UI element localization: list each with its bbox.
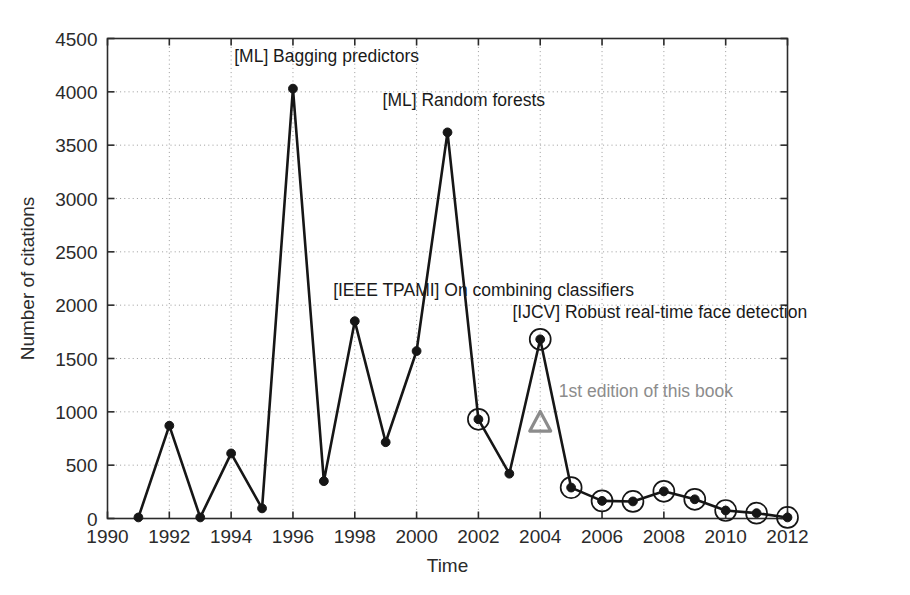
data-point <box>783 513 792 522</box>
data-point <box>443 128 452 137</box>
data-point <box>289 84 298 93</box>
chart-canvas: 0500100015002000250030003500400045001990… <box>0 0 910 595</box>
data-point <box>258 504 267 513</box>
y-tick-label: 2500 <box>55 242 97 263</box>
data-point <box>629 497 638 506</box>
chart-annotation: [ML] Bagging predictors <box>234 46 419 66</box>
x-tick-label: 2006 <box>581 526 623 547</box>
data-point <box>381 438 390 447</box>
data-point <box>536 335 545 344</box>
data-point <box>598 497 607 506</box>
y-tick-label: 4500 <box>55 29 97 50</box>
x-tick-label: 2002 <box>457 526 499 547</box>
x-tick-label: 1996 <box>272 526 314 547</box>
x-tick-label: 2008 <box>643 526 685 547</box>
x-tick-label: 2004 <box>519 526 562 547</box>
y-tick-label: 3500 <box>55 135 97 156</box>
data-point <box>319 477 328 486</box>
chart-annotation: [IEEE TPAMI] On combining classifiers <box>333 280 634 300</box>
data-point <box>165 421 174 430</box>
data-point <box>412 347 421 356</box>
x-tick-label: 2010 <box>705 526 747 547</box>
y-axis-title: Number of citations <box>17 197 38 361</box>
y-tick-label: 2000 <box>55 295 97 316</box>
chart-annotation: [ML] Random forests <box>383 90 546 110</box>
data-point <box>752 509 761 518</box>
x-tick-label: 1992 <box>148 526 190 547</box>
data-point <box>134 513 143 522</box>
chart-annotation: [IJCV] Robust real-time face detection <box>512 302 807 322</box>
y-tick-label: 3000 <box>55 189 97 210</box>
data-point <box>350 317 359 326</box>
y-tick-label: 500 <box>66 455 98 476</box>
y-tick-label: 1500 <box>55 349 97 370</box>
plot-frame <box>108 39 788 519</box>
data-point <box>474 415 483 424</box>
citation-chart-figure: 0500100015002000250030003500400045001990… <box>0 0 910 595</box>
x-tick-label: 1998 <box>334 526 376 547</box>
data-point <box>659 487 668 496</box>
x-tick-label: 1994 <box>210 526 253 547</box>
y-tick-label: 4000 <box>55 82 97 103</box>
chart-annotation: 1st edition of this book <box>559 381 733 401</box>
data-point <box>690 495 699 504</box>
data-point <box>505 469 514 478</box>
x-axis-title: Time <box>427 555 469 576</box>
y-tick-label: 1000 <box>55 402 97 423</box>
x-tick-label: 1990 <box>86 526 128 547</box>
x-tick-label: 2000 <box>395 526 437 547</box>
data-point <box>227 449 236 458</box>
data-point <box>196 513 205 522</box>
data-point <box>567 483 576 492</box>
data-point <box>721 506 730 515</box>
